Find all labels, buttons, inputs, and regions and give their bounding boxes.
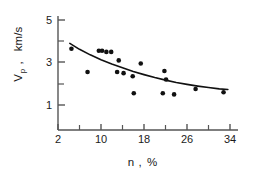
x-ticklabel-18: 18 (138, 133, 150, 145)
data-point (172, 92, 177, 97)
data-point (131, 91, 136, 96)
y-axis-label-subscript: p (18, 68, 27, 73)
data-point (69, 46, 74, 51)
data-point (100, 49, 105, 54)
x-ticklabel-2: 2 (55, 133, 61, 145)
data-point (161, 91, 166, 96)
data-point (121, 71, 126, 76)
data-point (221, 90, 226, 95)
y-ticklabel-5: 5 (46, 14, 52, 26)
y-axis-label: V p , km/s (12, 27, 27, 82)
y-axis-label-unit: km/s (12, 27, 24, 52)
data-point (162, 69, 167, 74)
x-axis-major-ticks (58, 124, 230, 130)
data-point (116, 58, 121, 63)
y-ticklabel-1: 1 (46, 99, 52, 111)
data-point (130, 74, 135, 79)
y-ticklabel-3: 3 (46, 56, 52, 68)
chart-svg: 5 3 1 2 10 18 26 34 n , % (0, 0, 263, 173)
y-axis-label-comma: , (12, 61, 24, 64)
scatter-series (69, 46, 226, 96)
data-point (104, 50, 109, 55)
data-point (109, 50, 114, 55)
data-point (193, 87, 198, 92)
data-point (85, 70, 90, 75)
x-axis-label-unit: % (147, 156, 157, 168)
figure-scatter-plot: 5 3 1 2 10 18 26 34 n , % (0, 0, 263, 173)
data-point (164, 77, 169, 82)
x-axis-label-symbol: n (128, 156, 134, 168)
x-axis-label-comma: , (138, 156, 141, 168)
x-axis-label: n , % (128, 156, 157, 168)
axes (58, 16, 238, 130)
data-point (115, 70, 120, 75)
y-axis-major-ticks (58, 20, 65, 105)
x-ticklabel-26: 26 (181, 133, 193, 145)
x-ticklabel-34: 34 (224, 133, 236, 145)
x-ticklabel-10: 10 (95, 133, 107, 145)
data-point (138, 61, 143, 66)
y-axis-label-symbol: V (12, 74, 24, 82)
fit-curve (70, 43, 228, 89)
